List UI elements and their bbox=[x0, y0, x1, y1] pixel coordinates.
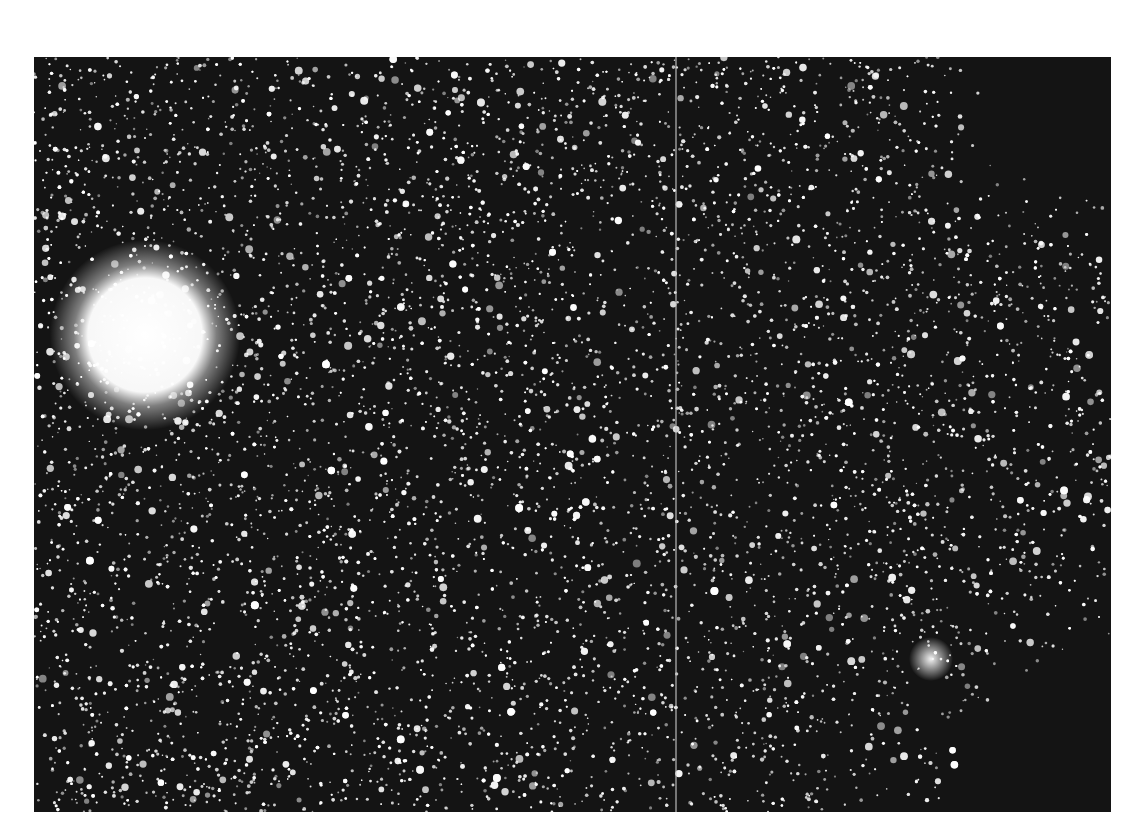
star-field-canvas bbox=[34, 57, 1111, 812]
star-field-photo bbox=[34, 57, 1111, 812]
plate-seam-line bbox=[675, 57, 677, 812]
